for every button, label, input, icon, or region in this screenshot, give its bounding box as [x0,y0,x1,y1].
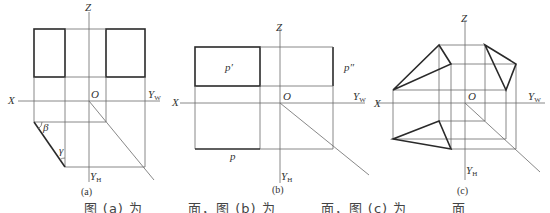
beta-label: β [42,121,49,133]
diagonal-c [465,103,540,172]
side-view-triangle-c [485,45,516,90]
p-double-prime-label: p″ [343,61,355,73]
origin-label-c: O [468,90,476,102]
z-label-b: Z [276,21,283,33]
yh-label-b: YH [281,170,292,184]
front-view-rect-a [34,29,65,77]
origin-label-b: O [283,90,291,102]
x-label-c: X [373,97,382,109]
p-label: p [229,150,236,162]
caption-a: (a) [81,186,92,198]
diagonal-a [89,101,154,180]
origin-label-a: O [91,88,99,100]
top-view-triangle-c [393,121,451,149]
z-label-c: Z [461,12,468,24]
yw-label-c: YW [528,90,541,104]
caption-b: (b) [272,184,284,196]
gamma-label: γ [59,144,64,156]
panel-c: Z X O YW YH (c) [373,12,545,197]
x-label-b: X [171,96,180,108]
yw-label-a: YW [148,88,161,102]
z-label-a: Z [85,1,92,13]
panel-b: Z X O YW YH p′ p″ p (b) [171,21,369,196]
front-view-triangle-c [393,45,451,90]
yw-label-b: YW [353,90,366,104]
diagonal-b [280,103,369,175]
side-view-rect-a [106,29,145,77]
caption-c: (c) [457,185,468,197]
panel-a: Z X O YW YH β γ (a) [7,1,161,198]
p-prime-label: p′ [224,61,234,73]
three-view-projection-diagrams: Z X O YW YH β γ (a) Z X O YW YH p′ p″ p … [0,0,550,213]
yh-label-c: YH [466,164,477,178]
yh-label-a: YH [90,170,101,184]
x-label-a: X [7,94,16,106]
question-text: 图 (a) 为______面，图 (b) 为______面，图 (c) 为___… [0,198,550,213]
